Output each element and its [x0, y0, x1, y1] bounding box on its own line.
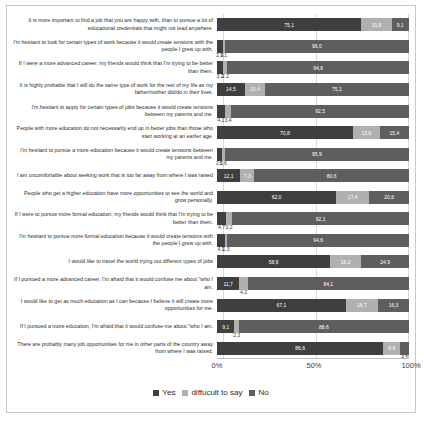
stacked-bar[interactable]: 75,115,89,1	[217, 18, 409, 31]
category-label: If I pursued a more advanced career, I'm…	[13, 276, 217, 291]
bar-segment-no[interactable]: 84,1	[248, 277, 409, 290]
bar-segment-yes[interactable]: 86,6	[217, 342, 383, 355]
bar-segment-no[interactable]: 20,6	[369, 191, 409, 204]
value-label: 70,8	[280, 130, 290, 136]
category-label: If I were a more advanced career, my fri…	[13, 60, 217, 75]
stacked-bar[interactable]: 4,13,492,5	[217, 105, 409, 118]
legend-item-no[interactable]: No	[249, 388, 268, 397]
bar-segment-difficult[interactable]: 7,3	[240, 169, 254, 182]
stacked-bar[interactable]: 3,22,294,6	[217, 61, 409, 74]
value-label: 75,1	[284, 22, 294, 28]
bar-segment-no[interactable]: 15,4	[380, 126, 410, 139]
value-label: 92,1	[316, 216, 326, 222]
bar-segment-difficult[interactable]: 8,9	[383, 342, 400, 355]
bar-track: 12,17,380,6	[217, 165, 409, 187]
table-row: It is more important to find a job that …	[13, 14, 409, 36]
bar-track: 62,017,420,6	[217, 187, 409, 209]
bar-segment-no[interactable]: 92,1	[232, 212, 409, 225]
bar-segment-difficult[interactable]: 13,9	[353, 126, 380, 139]
bar-segment-no[interactable]: 16,3	[378, 299, 409, 312]
value-label: 13,9	[361, 130, 371, 136]
table-row: I'm hesitant to pursue a more education …	[13, 143, 409, 165]
stacked-bar[interactable]: 4,11,394,6	[217, 234, 409, 247]
value-label: 15,8	[371, 22, 381, 28]
bar-segment-yes[interactable]: 4,7	[217, 212, 226, 225]
bar-segment-no[interactable]: 24,9	[361, 255, 409, 268]
stacked-bar[interactable]: 11,74,284,1	[217, 277, 409, 290]
table-row: There are probably many job opportunitie…	[13, 337, 409, 359]
value-label: 67,1	[277, 302, 287, 308]
chart-legend: Yesdiffucult to sayNo	[7, 388, 415, 397]
bar-segment-yes[interactable]: 58,9	[217, 255, 330, 268]
bar-segment-no[interactable]: 75,1	[265, 83, 409, 96]
bar-track: 4,13,492,5	[217, 100, 409, 122]
bar-segment-yes[interactable]: 67,1	[217, 299, 346, 312]
value-label: 62,0	[272, 194, 282, 200]
legend-swatch-icon	[182, 390, 188, 396]
bar-segment-yes[interactable]: 4,1	[217, 234, 225, 247]
bar-segment-difficult[interactable]: 4,2	[239, 277, 247, 290]
bar-track: 4,11,394,6	[217, 230, 409, 252]
x-axis-line	[217, 358, 409, 359]
x-tick-label: 100%	[401, 361, 420, 370]
bar-segment-difficult[interactable]: 17,4	[336, 191, 369, 204]
value-label: 14,5	[226, 86, 236, 92]
stacked-bar[interactable]: 2,91,196,0	[217, 40, 409, 53]
bar-segment-yes[interactable]: 11,7	[217, 277, 239, 290]
bar-segment-difficult[interactable]: 10,4	[245, 83, 265, 96]
value-label: 15,4	[390, 130, 400, 136]
value-label: 94,6	[313, 65, 323, 71]
bar-segment-no[interactable]: 96,0	[225, 40, 409, 53]
value-label: 88,6	[319, 324, 329, 330]
stacked-bar[interactable]: 62,017,420,6	[217, 191, 409, 204]
bar-segment-no[interactable]: 94,6	[227, 61, 409, 74]
bar-segment-no[interactable]: 94,6	[227, 234, 409, 247]
legend-item-mid[interactable]: diffucult to say	[182, 388, 242, 397]
value-label: 86,6	[295, 345, 305, 351]
stacked-bar[interactable]: 2,51,695,9	[217, 148, 409, 161]
category-label: I would like to travel the world trying …	[13, 258, 217, 266]
stacked-bar[interactable]: 12,17,380,6	[217, 169, 409, 182]
table-row: If I were a more advanced career, my fri…	[13, 57, 409, 79]
value-label: 8,9	[388, 345, 395, 351]
bar-track: 67,116,716,3	[217, 294, 409, 316]
bar-segment-no[interactable]: 92,5	[231, 105, 409, 118]
bar-segment-yes[interactable]: 14,5	[217, 83, 245, 96]
stacked-bar[interactable]: 58,916,224,9	[217, 255, 409, 268]
bar-segment-yes[interactable]: 12,1	[217, 169, 240, 182]
table-row: I'm hesitant to look for certain types o…	[13, 36, 409, 58]
bar-segment-difficult[interactable]: 15,8	[361, 18, 391, 31]
bar-segment-no[interactable]: 9,1	[392, 18, 409, 31]
bar-segment-yes[interactable]: 75,1	[217, 18, 361, 31]
bar-segment-yes[interactable]: 9,1	[217, 320, 234, 333]
value-label: 24,9	[380, 259, 390, 265]
value-label: 9,1	[222, 324, 229, 330]
bar-segment-no[interactable]: 95,9	[225, 148, 409, 161]
stacked-bar[interactable]: 67,116,716,3	[217, 299, 409, 312]
bar-segment-yes[interactable]: 4,1	[217, 105, 225, 118]
value-label: 95,9	[312, 151, 322, 157]
stacked-bar[interactable]: 4,73,292,1	[217, 212, 409, 225]
legend-item-yes[interactable]: Yes	[153, 388, 175, 397]
bar-track: 2,91,196,0	[217, 36, 409, 58]
table-row: People who get a higher education have m…	[13, 187, 409, 209]
stacked-bar[interactable]: 70,813,915,4	[217, 126, 409, 139]
stacked-bar[interactable]: 14,510,475,1	[217, 83, 409, 96]
bar-segment-no[interactable]: 80,6	[254, 169, 409, 182]
bar-segment-yes[interactable]: 62,0	[217, 191, 336, 204]
stacked-bar[interactable]: 9,12,388,6	[217, 320, 409, 333]
legend-label: No	[258, 388, 268, 397]
bar-segment-yes[interactable]: 70,8	[217, 126, 353, 139]
stacked-bar[interactable]: 86,68,94,5	[217, 342, 409, 355]
bar-segment-difficult[interactable]: 16,2	[330, 255, 361, 268]
category-label: I'm hesitant to apply for certain types …	[13, 104, 217, 119]
bar-segment-no[interactable]: 4,5	[400, 342, 409, 355]
table-row: If I pursued a more education, I'm afrai…	[13, 316, 409, 338]
value-label: 11,7	[224, 281, 233, 287]
category-label: I'm hesitant to pursue more formal educa…	[13, 233, 217, 248]
legend-label: Yes	[162, 388, 175, 397]
bar-segment-no[interactable]: 88,6	[239, 320, 409, 333]
bar-segment-difficult[interactable]: 16,7	[346, 299, 378, 312]
value-label: 16,3	[389, 302, 399, 308]
table-row: I would like to get as much education as…	[13, 294, 409, 316]
